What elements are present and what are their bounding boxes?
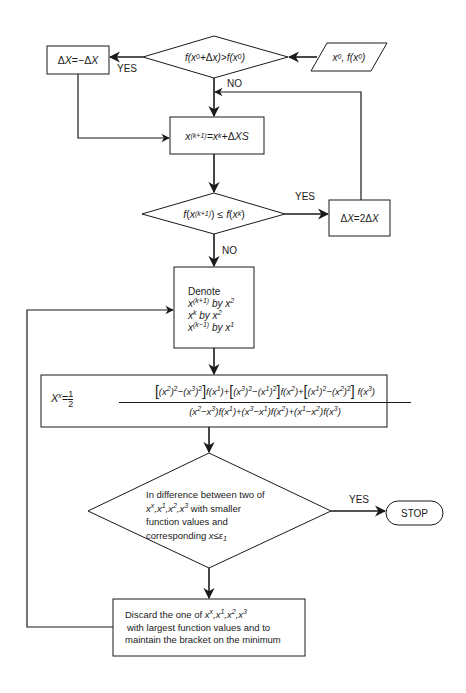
formula-numerator: [(x2)2−(x3)2]f(x1)+[(x3)2−(x1)2]f(x2)+[(…	[109, 380, 421, 402]
decision2-label: f(x(k+1)) ≤ f(xk)	[165, 203, 263, 225]
no-label-decision2: NO	[222, 245, 237, 256]
input-close: )	[362, 52, 365, 63]
yes-label-decision1: YES	[117, 63, 137, 74]
decision3-line-2-tail: with smaller	[188, 503, 241, 514]
discard-line-2: with largest function values and to	[125, 622, 281, 635]
yes-label-decision2: YES	[295, 191, 315, 202]
formula-content: Xx=12 [(x2)2−(x3)2]f(x1)+[(x3)2−(x1)2]f(…	[41, 375, 387, 427]
decision3-line-1: In difference between two of	[146, 488, 265, 502]
decision3-line-4-head: corresponding	[146, 530, 209, 541]
edge-negate-to-update	[78, 74, 169, 138]
stop-label: STOP	[386, 501, 443, 525]
update-x-label: x(k+1)=xk+ΔXS	[170, 117, 264, 154]
discard-line-3: maintain the bracket on the minimum	[125, 634, 281, 647]
formula-fraction: [(x2)2−(x3)2]f(x1)+[(x3)2−(x1)2]f(x2)+[(…	[109, 380, 421, 421]
decision1-label: f(x0+Δx)>f(x0)	[160, 46, 270, 68]
edge-discard-loop	[27, 310, 173, 627]
discard-label: Discard the one of xx,x1,x2,x3 with larg…	[125, 609, 281, 647]
decision3-line-4: corresponding x≤ε1	[146, 529, 265, 543]
double-step-label: ΔX=2ΔX	[329, 200, 390, 236]
decision3-line-3: function values and	[146, 515, 265, 529]
decision3-label: In difference between two of xx,x1,x2,x3…	[146, 488, 265, 542]
negate-step-label: ΔX=−ΔX	[47, 46, 109, 74]
input-label: x0, f(x0)	[315, 43, 383, 71]
formula-denominator: (x2−x3)f(x1)+(x3−x1)f(x2)+(x1−x2)f(x3)	[119, 402, 411, 421]
input-sep: , f(x	[341, 52, 358, 63]
yes-label-decision3: YES	[349, 494, 369, 505]
discard-line-1-head: Discard the one of	[125, 609, 205, 620]
no-label-decision1: NO	[227, 78, 242, 89]
denote-label: Denote x(k+1) by x2 xk by x2 x(k−1) by x…	[188, 286, 234, 334]
input-x: x	[333, 52, 338, 63]
denote-line-3: x(k−1) by x1	[188, 322, 234, 334]
discard-line-1: Discard the one of xx,x1,x2,x3	[125, 609, 281, 622]
decision3-line-2: xx,x1,x2,x3 with smaller	[146, 502, 265, 516]
flowchart-canvas	[0, 0, 466, 693]
formula-lhs: Xx=12	[51, 390, 73, 409]
